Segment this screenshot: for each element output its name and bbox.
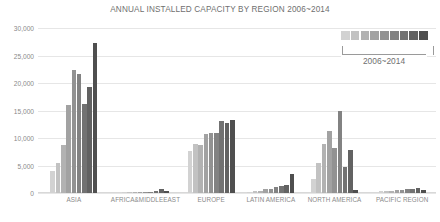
bar[interactable]: [353, 190, 358, 193]
bar[interactable]: [253, 191, 258, 193]
legend-swatch-2013[interactable]: [409, 31, 418, 40]
bar[interactable]: [379, 191, 384, 193]
bar-group-latin-america: [241, 28, 301, 193]
legend-swatch-2010[interactable]: [380, 31, 389, 40]
chart-title: ANNUAL INSTALLED CAPACITY BY REGION 2006…: [0, 5, 440, 14]
bar[interactable]: [219, 121, 224, 193]
bar[interactable]: [143, 192, 148, 193]
bar[interactable]: [225, 123, 230, 193]
bar[interactable]: [122, 192, 127, 193]
bar[interactable]: [322, 144, 327, 194]
bar[interactable]: [316, 163, 321, 193]
bar[interactable]: [50, 171, 55, 193]
x-axis-label-north-america: NORTH AMERICA: [301, 196, 369, 210]
bar[interactable]: [204, 134, 209, 193]
bar[interactable]: [66, 105, 71, 193]
bar-group-asia: [38, 28, 110, 193]
legend-swatch-2008[interactable]: [361, 31, 370, 40]
bar[interactable]: [284, 185, 289, 193]
y-axis-tick-label: 15,000: [14, 107, 34, 114]
legend-label: 2006~2014: [341, 56, 427, 66]
bar[interactable]: [148, 192, 153, 193]
bar[interactable]: [133, 192, 138, 193]
y-axis-tick-label: 30,000: [14, 25, 34, 32]
x-axis-label-latin-america: LATIN AMERICA: [241, 196, 301, 210]
bar[interactable]: [311, 179, 316, 193]
bracket-line: [342, 54, 426, 55]
legend-swatches: [341, 31, 435, 40]
x-axis-label-africa-middleeast: AFRICA&MIDDLEEAST: [110, 196, 182, 210]
bar[interactable]: [400, 190, 405, 193]
bar[interactable]: [348, 150, 353, 193]
bar[interactable]: [332, 148, 337, 193]
legend-swatch-2009[interactable]: [370, 31, 379, 40]
bar[interactable]: [230, 120, 235, 193]
bar[interactable]: [263, 189, 268, 193]
bar[interactable]: [188, 151, 193, 193]
bar[interactable]: [343, 167, 348, 193]
bar[interactable]: [56, 163, 61, 193]
chart-legend: 2006~2014: [341, 31, 435, 65]
bar[interactable]: [77, 74, 82, 193]
y-axis-tick-label: 5,000: [17, 162, 34, 169]
y-axis-tick-label: 0: [30, 190, 34, 197]
legend-bracket: 2006~2014: [341, 42, 435, 62]
chart-container: ANNUAL INSTALLED CAPACITY BY REGION 2006…: [0, 0, 440, 222]
bar[interactable]: [154, 191, 159, 193]
bar[interactable]: [290, 174, 295, 193]
bracket-tick-left: [342, 46, 343, 55]
bar[interactable]: [269, 189, 274, 193]
x-axis-label-asia: ASIA: [38, 196, 110, 210]
bar[interactable]: [421, 190, 426, 193]
bar[interactable]: [138, 192, 143, 193]
bar[interactable]: [384, 191, 389, 193]
bar[interactable]: [327, 131, 332, 193]
legend-swatch-2007[interactable]: [351, 31, 360, 40]
bar[interactable]: [279, 186, 284, 193]
bar[interactable]: [61, 145, 66, 193]
bar[interactable]: [198, 145, 203, 193]
bar[interactable]: [93, 43, 98, 193]
bar[interactable]: [405, 189, 410, 193]
bar[interactable]: [395, 190, 400, 193]
y-axis-tick-label: 25,000: [14, 52, 34, 59]
x-axis-labels: ASIAAFRICA&MIDDLEEASTEUROPELATIN AMERICA…: [38, 196, 436, 210]
bar[interactable]: [338, 111, 343, 193]
bar[interactable]: [164, 191, 169, 193]
legend-swatch-2012[interactable]: [400, 31, 409, 40]
legend-swatch-2014[interactable]: [419, 31, 428, 40]
bar[interactable]: [416, 188, 421, 193]
bar[interactable]: [127, 192, 132, 193]
legend-swatch-2011[interactable]: [390, 31, 399, 40]
bar[interactable]: [193, 144, 198, 194]
bar-group-europe: [181, 28, 241, 193]
bar[interactable]: [389, 191, 394, 193]
bracket-tick-right: [433, 46, 434, 55]
x-axis-label-pacific-region: PACIFIC REGION: [368, 196, 436, 210]
bar[interactable]: [410, 189, 415, 193]
bar[interactable]: [209, 133, 214, 193]
bar-group-africa-middleeast: [110, 28, 182, 193]
gridline: 0: [38, 193, 436, 194]
bar[interactable]: [87, 87, 92, 193]
bar[interactable]: [214, 133, 219, 194]
bar[interactable]: [159, 189, 164, 193]
bar[interactable]: [72, 70, 77, 193]
x-axis-label-europe: EUROPE: [181, 196, 241, 210]
y-axis-tick-label: 10,000: [14, 135, 34, 142]
bar[interactable]: [274, 187, 279, 193]
bar[interactable]: [247, 192, 252, 193]
y-axis-tick-label: 20,000: [14, 80, 34, 87]
bar[interactable]: [258, 191, 263, 193]
legend-swatch-2006[interactable]: [341, 31, 350, 40]
bar[interactable]: [82, 104, 87, 193]
